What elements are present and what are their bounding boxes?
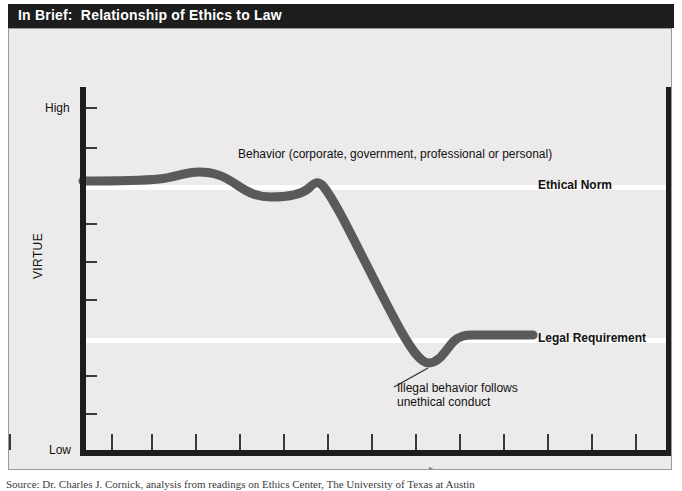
x-axis-tick	[151, 434, 153, 450]
source-caption: Source: Dr. Charles J. Cornick, analysis…	[6, 478, 682, 490]
right-axis-border	[666, 87, 672, 456]
y-axis-tick	[86, 299, 97, 301]
behavior-annotation: Behavior (corporate, government, profess…	[238, 147, 552, 161]
x-axis-tick	[195, 434, 197, 450]
callout-leader-line	[9, 29, 672, 470]
x-axis-tick	[371, 434, 373, 450]
page-title: In Brief: Relationship of Ethics to Law	[18, 7, 282, 23]
x-axis-tick	[283, 434, 285, 450]
x-axis-tick	[111, 434, 113, 450]
y-axis-tick	[86, 375, 97, 377]
chart-panel: High Low VIRTUE Ethical Norm Legal Requi…	[8, 28, 672, 470]
x-axis-tick	[547, 434, 549, 450]
y-axis-tick	[86, 223, 97, 225]
x-axis-tick	[415, 434, 417, 450]
figure-relationship-of-ethics-to-law: In Brief: Relationship of Ethics to Law	[0, 0, 682, 491]
x-axis-tick	[503, 434, 505, 450]
title-banner: In Brief: Relationship of Ethics to Law	[8, 4, 674, 28]
y-axis-tick	[86, 261, 97, 263]
y-axis-label-high: High	[45, 101, 70, 115]
ethical-norm-label: Ethical Norm	[538, 178, 612, 192]
x-axis-tick	[9, 434, 11, 450]
y-axis-title: VIRTUE	[31, 226, 45, 286]
x-axis-tick	[239, 434, 241, 450]
x-axis-tick	[459, 434, 461, 450]
x-axis	[80, 450, 672, 456]
x-axis-tick	[635, 434, 637, 450]
illegal-behavior-line-1: Illegal behavior follows	[397, 381, 518, 395]
time-arrow-icon	[349, 466, 479, 470]
illegal-behavior-annotation: Illegal behavior follows unethical condu…	[397, 381, 518, 409]
y-axis-tick	[86, 413, 97, 415]
y-axis-tick	[86, 147, 97, 149]
legal-requirement-label: Legal Requirement	[538, 331, 646, 345]
x-axis-tick	[591, 434, 593, 450]
y-axis-label-low: Low	[49, 443, 71, 457]
illegal-behavior-line-2: unethical conduct	[397, 395, 518, 409]
x-axis-tick	[327, 434, 329, 450]
y-axis-tick	[86, 107, 97, 109]
y-axis	[80, 87, 86, 456]
